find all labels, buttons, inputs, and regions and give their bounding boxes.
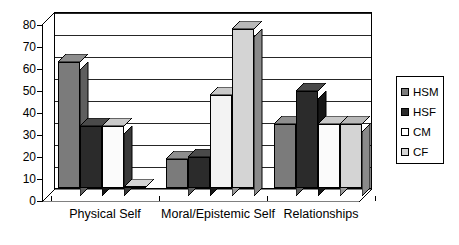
bar-face [318,124,340,188]
y-tick-label: 20 [8,151,36,163]
bar-top [318,116,340,123]
bar-cf-relationships [340,124,362,188]
bar-side [254,29,262,188]
bar-top [210,87,232,94]
bar-cf-moral-epistemic-self [232,29,254,188]
bar-top [340,116,362,123]
legend-swatch-cm [401,128,409,136]
bar-hsf-physical-self [80,126,102,188]
legend-label-hsf: HSF [413,107,436,118]
bar-face [232,29,254,188]
bar-chart: 80 70 60 50 40 30 20 10 0 [0,0,459,245]
bar-face [58,62,80,188]
bar-cm-physical-self [102,126,124,188]
bar-face [124,186,146,188]
bar-top [232,21,254,28]
bar-hsf-moral-epistemic-self [188,157,210,188]
bar-face [102,126,124,188]
legend-label-cf: CF [413,147,428,158]
legend-swatch-hsf [401,108,409,116]
bar-face [296,91,318,188]
x-axis-label-relationships: Relationships [256,207,386,221]
bar-top [58,54,80,61]
y-tick-label: 40 [8,107,36,119]
legend-swatch-cf [401,148,409,156]
bar-face [340,124,362,188]
legend-item-hsm: HSM [401,82,443,102]
legend-label-cm: CM [413,127,431,138]
bar-hsm-physical-self [58,62,80,188]
y-tick-label: 30 [8,129,36,141]
bar-top [102,118,124,125]
y-tick-label: 0 [8,195,36,207]
bar-face [80,126,102,188]
bar-top [80,118,102,125]
legend-swatch-hsm [401,88,409,96]
bar-hsf-relationships [296,91,318,188]
bar-cm-moral-epistemic-self [210,95,232,188]
legend-item-cm: CM [401,122,443,142]
legend-label-hsm: HSM [413,87,439,98]
y-tick-label: 50 [8,85,36,97]
y-tick-label: 60 [8,63,36,75]
y-tick-label: 80 [8,19,36,31]
legend: HSM HSF CM CF [396,76,444,164]
bar-top [296,83,318,90]
bar-hsm-moral-epistemic-self [166,159,188,188]
legend-item-cf: CF [401,142,443,162]
bar-face [166,159,188,188]
bar-hsm-relationships [274,124,296,188]
bar-top [274,116,296,123]
bar-side [362,124,370,188]
bar-top [188,149,210,156]
bar-cf-physical-self [124,187,146,188]
y-tick-label: 70 [8,41,36,53]
bars-layer [42,12,372,202]
bar-top [166,151,188,158]
bar-cm-relationships [318,124,340,188]
bar-face [188,157,210,188]
legend-item-hsf: HSF [401,102,443,122]
bar-face [210,95,232,188]
bar-top [124,179,146,186]
bar-face [274,124,296,188]
y-tick-label: 10 [8,173,36,185]
